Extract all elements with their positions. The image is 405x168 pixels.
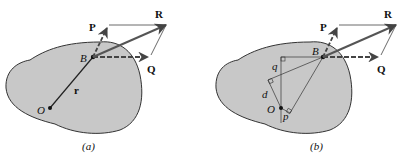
panel-a: P R Q B O r (a) (6, 8, 166, 153)
label-b-a: B (80, 52, 87, 64)
label-r-b: R (384, 8, 393, 20)
caption-b: (b) (310, 140, 323, 153)
label-b-b: B (312, 45, 319, 57)
panel-b: P R Q B O q d p (b) (216, 8, 396, 153)
figure: P R Q B O r (a) P R Q B O q d p (b) (0, 0, 405, 168)
label-q-b: Q (377, 63, 386, 75)
vector-r-b (323, 25, 396, 57)
caption-a: (a) (82, 140, 95, 153)
label-p-dist: p (282, 110, 289, 122)
label-p-b: P (320, 21, 327, 33)
label-r-vec-a: r (74, 84, 79, 96)
label-q-dist: q (272, 60, 278, 72)
label-p-a: P (89, 21, 96, 33)
label-r-a: R (155, 8, 164, 20)
label-q-a: Q (147, 63, 156, 75)
label-o-b: O (267, 103, 275, 115)
label-o-a: O (37, 104, 45, 116)
label-d-dist: d (262, 88, 268, 100)
point-o-a (48, 106, 52, 110)
